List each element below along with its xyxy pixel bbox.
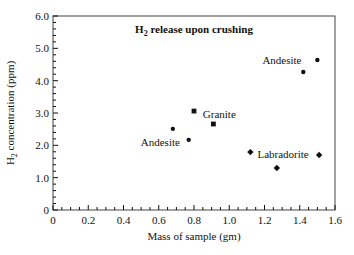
x-tick-label: 0.8 — [187, 214, 201, 226]
diamond-marker — [274, 165, 280, 171]
x-tick-label: 0 — [50, 214, 56, 226]
circle-marker — [171, 127, 175, 131]
x-tick-label: 1.6 — [328, 214, 342, 226]
x-axis-ticks: 00.20.40.60.81.01.21.41.6 — [50, 205, 342, 226]
x-tick-label: 0.4 — [117, 214, 131, 226]
square-marker — [211, 122, 216, 127]
y-axis-label: H2 concentration (ppm) — [4, 61, 19, 166]
y-tick-label: 4.0 — [35, 75, 49, 87]
circle-marker — [187, 138, 191, 142]
y-tick-label: 1.0 — [35, 172, 49, 184]
circle-marker — [315, 58, 319, 62]
y-tick-label: 0 — [44, 204, 50, 216]
y-tick-label: 3.0 — [35, 107, 49, 119]
x-tick-label: 0.6 — [152, 214, 166, 226]
chart-title: H2 release upon crushing — [135, 23, 253, 38]
circle-marker — [301, 70, 305, 74]
x-tick-label: 0.2 — [81, 214, 95, 226]
y-axis-ticks: 01.02.03.04.05.06.0 — [35, 10, 58, 216]
x-tick-label: 1.0 — [222, 214, 236, 226]
point-labels: AndesiteAndesiteGraniteLabradorite — [141, 54, 309, 160]
square-marker — [192, 109, 197, 114]
scatter-chart: 01.02.03.04.05.06.0 00.20.40.60.81.01.21… — [0, 0, 354, 255]
diamond-marker — [247, 149, 253, 155]
y-tick-label: 6.0 — [35, 10, 49, 22]
series-label: Granite — [203, 108, 236, 120]
series-label: Andesite — [141, 136, 180, 148]
x-tick-label: 1.4 — [293, 214, 307, 226]
series-label: Andesite — [262, 54, 301, 66]
y-tick-label: 2.0 — [35, 139, 49, 151]
series-label: Labradorite — [257, 148, 308, 160]
x-tick-label: 1.2 — [258, 214, 272, 226]
y-tick-label: 5.0 — [35, 42, 49, 54]
diamond-marker — [316, 152, 322, 158]
x-axis-label: Mass of sample (gm) — [147, 230, 241, 243]
